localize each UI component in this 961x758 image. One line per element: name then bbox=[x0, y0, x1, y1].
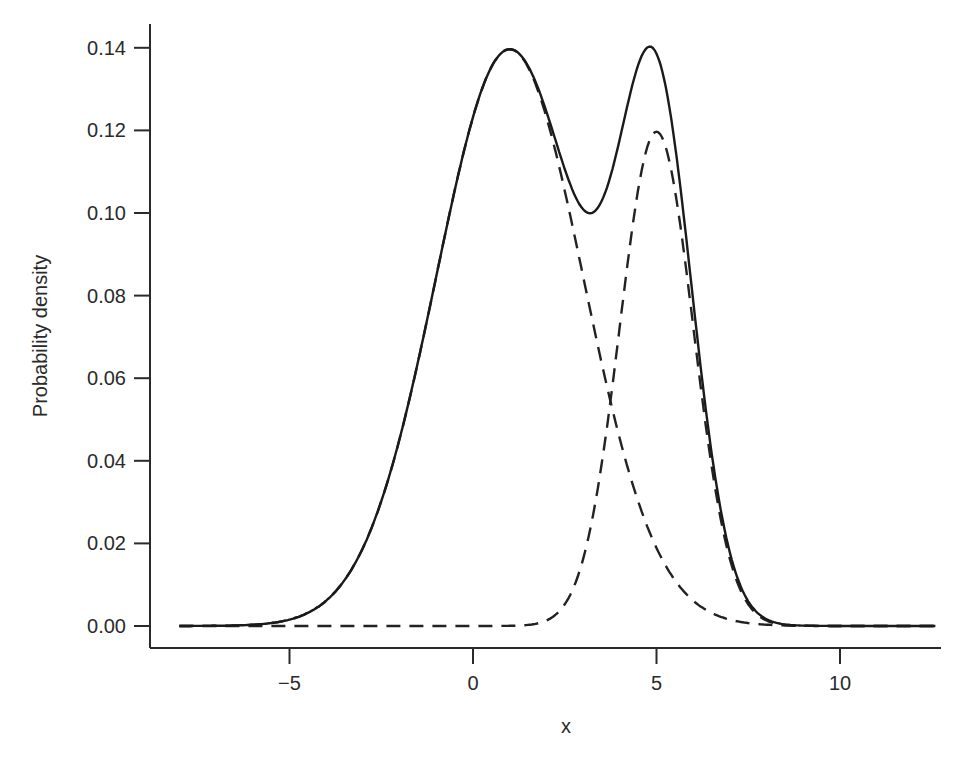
y-tick-label: 0.10 bbox=[87, 202, 126, 224]
y-tick-label: 0.04 bbox=[87, 450, 126, 472]
component-1-curve bbox=[179, 49, 935, 626]
y-tick-label: 0.00 bbox=[87, 615, 126, 637]
y-axis-title: Probability density bbox=[29, 255, 51, 417]
mixture-density-curve bbox=[179, 47, 935, 626]
x-tick-label: 5 bbox=[651, 672, 662, 694]
y-tick-label: 0.14 bbox=[87, 37, 126, 59]
density-chart: 0.000.020.040.060.080.100.120.14 −50510 … bbox=[0, 0, 961, 758]
x-tick-label: 10 bbox=[829, 672, 851, 694]
x-ticks: −50510 bbox=[278, 648, 851, 694]
axes: 0.000.020.040.060.080.100.120.14 −50510 bbox=[87, 24, 941, 694]
y-tick-label: 0.12 bbox=[87, 119, 126, 141]
component-2-curve bbox=[179, 132, 935, 626]
y-tick-label: 0.08 bbox=[87, 285, 126, 307]
x-tick-label: −5 bbox=[278, 672, 301, 694]
x-axis-title: x bbox=[561, 715, 571, 737]
x-tick-label: 0 bbox=[467, 672, 478, 694]
y-ticks: 0.000.020.040.060.080.100.120.14 bbox=[87, 37, 150, 637]
plot-area bbox=[179, 47, 935, 626]
y-tick-label: 0.06 bbox=[87, 367, 126, 389]
y-tick-label: 0.02 bbox=[87, 532, 126, 554]
